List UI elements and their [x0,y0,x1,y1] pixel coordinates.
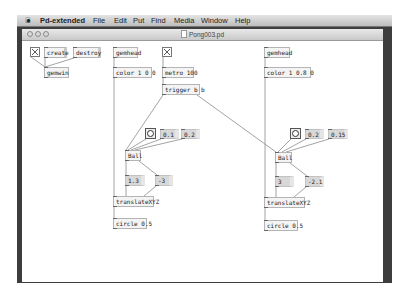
translatexyz-object-2[interactable]: translateXYZ [264,197,305,208]
toggle-2[interactable] [162,47,172,57]
bang-circle-icon [292,130,299,137]
patch-canvas[interactable]: create destroy gemwin gemhead color 1 0 … [22,41,383,282]
metro-object[interactable]: metro 100 [162,67,194,78]
circle-object-1[interactable]: circle 0.5 [113,218,147,229]
menu-put[interactable]: Put [133,16,144,26]
bang-circle-icon [147,130,154,137]
window-title-text: Pong003.pd [189,31,224,38]
number-box-1a[interactable]: 0.1 [160,129,179,139]
toggle-1[interactable] [30,47,40,57]
menu-edit[interactable]: Edit [114,16,127,26]
bang-2[interactable] [290,128,301,139]
color-object-2[interactable]: color 1 0.8 0 [264,67,311,78]
number-box-2b[interactable]: 0.15 [328,129,348,139]
number-box-2d[interactable]: -2.1 [305,176,324,187]
menu-help[interactable]: Help [235,16,250,26]
gemhead-object-2[interactable]: gemhead [264,47,290,58]
gemhead-object-1[interactable]: gemhead [113,47,138,58]
menu-media[interactable]: Media [174,16,194,26]
toggle-x-icon [163,48,171,56]
ball-object-2[interactable]: Ball [275,152,292,163]
gemwin-object[interactable]: gemwin [44,67,69,78]
color-object-1[interactable]: color 1 0 0 [113,67,152,78]
ball-object-1[interactable]: Ball [125,150,141,161]
menu-find[interactable]: Find [151,16,166,26]
trigger-object[interactable]: trigger b b [162,84,200,95]
window-titlebar[interactable]: Pong003.pd [22,29,383,41]
number-box-1c[interactable]: 1.3 [125,175,145,186]
patch-cords [22,41,383,282]
toggle-x-icon [31,48,39,56]
window-title: Pong003.pd [22,30,383,40]
create-message[interactable]: create [44,47,67,58]
menu-bar:  ● Pd-extended File Edit Put Find Media… [17,15,392,27]
number-box-1b[interactable]: 0.2 [181,129,200,139]
circle-object-2[interactable]: circle 0.5 [264,220,298,231]
destroy-message[interactable]: destroy [73,47,101,58]
menu-app-name[interactable]: Pd-extended [40,16,85,26]
patch-window: Pong003.pd [22,29,383,282]
number-box-1d[interactable]: -3 [155,175,173,186]
number-box-2a[interactable]: 0.2 [305,129,324,139]
bang-1[interactable] [145,128,156,139]
translatexyz-object-1[interactable]: translateXYZ [113,196,154,207]
number-box-2c[interactable]: 3 [275,176,294,187]
document-icon [181,30,187,38]
menu-window[interactable]: Window [201,16,228,26]
menu-file[interactable]: File [93,16,105,26]
apple-glyph: ● [26,16,31,26]
